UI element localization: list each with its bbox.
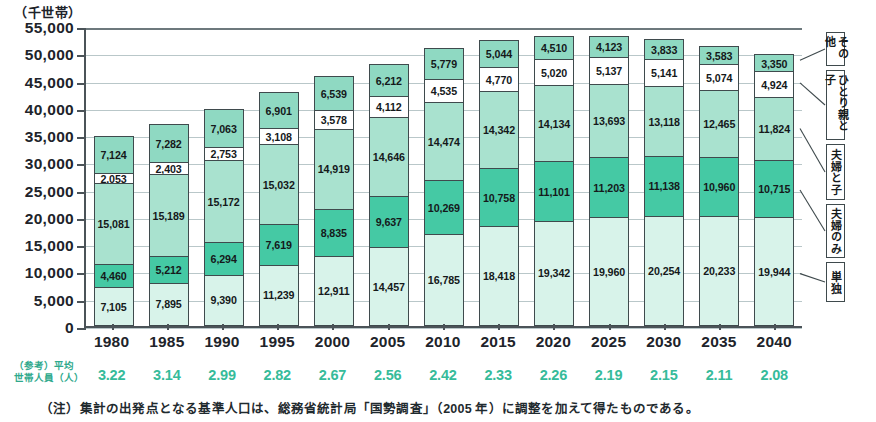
y-axis-tick — [77, 192, 86, 194]
average-household-row: （参考）平均 世帯人員（人） 3.223.142.992.822.672.562… — [0, 360, 876, 388]
average-household-value: 2.33 — [478, 367, 518, 383]
bar-segment: 19,960 — [589, 217, 629, 326]
bar-segment: 14,646 — [369, 117, 409, 197]
y-axis-tick — [77, 55, 86, 57]
x-axis-labels: 1980198519901995200020052010201520202025… — [84, 330, 802, 356]
x-axis-label: 2025 — [589, 333, 629, 351]
legend-item: その他 — [826, 32, 845, 66]
y-axis-tick-label: 10,000 — [25, 264, 74, 282]
legend-item: 夫婦と子 — [826, 144, 845, 200]
bar-segment: 11,203 — [589, 157, 629, 218]
bar-segment: 10,758 — [479, 168, 519, 227]
average-household-value: 2.08 — [754, 367, 794, 383]
x-axis-label: 2040 — [754, 333, 794, 351]
y-axis-tick-label: 0 — [65, 319, 74, 337]
bar-segment: 7,895 — [149, 283, 189, 326]
bar-segment: 12,911 — [314, 256, 354, 326]
stacked-bar: 19,34211,10114,1345,0204,510 — [534, 37, 574, 326]
average-household-value: 2.15 — [644, 367, 684, 383]
legend-item-label: ひとり親と子 — [823, 74, 849, 136]
bar-segment: 7,124 — [94, 136, 134, 175]
bar-segment: 14,919 — [314, 129, 354, 210]
x-axis-tick — [498, 324, 500, 330]
average-household-value: 2.82 — [257, 367, 297, 383]
stacked-bar: 16,78510,26914,4744,5355,779 — [424, 50, 464, 326]
average-caption-line1: （参考）平均 — [14, 360, 86, 372]
y-axis-tick-label: 50,000 — [25, 46, 74, 64]
bar-segment: 15,032 — [259, 144, 299, 226]
x-axis-label: 2030 — [644, 333, 684, 351]
bar-segment: 11,824 — [754, 97, 794, 161]
bar-segment: 5,212 — [149, 256, 189, 284]
stacked-bar: 7,8955,21215,1892,4037,282 — [149, 125, 189, 326]
bar-segment: 5,020 — [534, 59, 574, 86]
y-axis-tick-label: 15,000 — [25, 237, 74, 255]
bar-segment: 13,118 — [644, 86, 684, 158]
average-household-value: 2.26 — [533, 367, 573, 383]
x-axis-label: 1990 — [202, 333, 242, 351]
chart-plot-area: 55,00050,00045,00040,00035,00030,00025,0… — [84, 28, 802, 328]
x-axis-tick-group: 2020 — [533, 330, 573, 351]
bar-segment: 10,269 — [424, 180, 464, 236]
x-axis-tick — [167, 324, 169, 330]
x-axis-label: 2035 — [699, 333, 739, 351]
y-axis-tick — [77, 110, 86, 112]
bar-segment: 19,342 — [534, 221, 574, 327]
bar-segment: 15,081 — [94, 183, 134, 265]
y-axis-tick-label: 20,000 — [25, 210, 74, 228]
stacked-bar: 14,4579,63714,6464,1126,212 — [369, 65, 409, 326]
average-household-value: 2.11 — [699, 367, 739, 383]
stacked-bar: 18,41810,75814,3424,7705,044 — [479, 42, 519, 326]
bar-segment: 4,510 — [534, 36, 574, 61]
bar-segment: 7,282 — [149, 124, 189, 164]
bar-segment: 14,342 — [479, 91, 519, 169]
y-axis-tick — [77, 164, 86, 166]
x-axis-tick — [443, 324, 445, 330]
bar-segment: 19,944 — [754, 217, 794, 326]
bar-segment: 6,212 — [369, 64, 409, 98]
average-household-value: 2.99 — [202, 367, 242, 383]
stacked-bar: 20,25411,13813,1185,1413,833 — [644, 41, 684, 326]
bar-segment: 4,123 — [589, 36, 629, 58]
bar-segment: 3,583 — [699, 46, 739, 66]
x-axis-tick-group: 2005 — [368, 330, 408, 351]
bar-segment: 14,134 — [534, 85, 574, 162]
x-axis-tick-group: 2035 — [699, 330, 739, 351]
legend-leader-line — [800, 129, 825, 172]
stacked-bar: 20,23310,96012,4655,0743,583 — [699, 47, 739, 326]
average-household-caption: （参考）平均 世帯人員（人） — [14, 360, 86, 384]
bar-segment: 13,693 — [589, 84, 629, 159]
bar-segment: 4,770 — [479, 67, 519, 93]
legend-item: 単独 — [826, 262, 845, 302]
legend-leader-line — [800, 49, 825, 60]
average-household-value: 2.56 — [368, 367, 408, 383]
average-caption-line2: 世帯人員（人） — [14, 372, 86, 384]
y-axis-tick — [77, 301, 86, 303]
y-axis-tick — [77, 273, 86, 275]
bar-segment: 5,779 — [424, 48, 464, 80]
x-axis-label: 2020 — [533, 333, 573, 351]
bar-segment: 4,460 — [94, 264, 134, 288]
average-household-value: 3.14 — [147, 367, 187, 383]
bar-segment: 20,233 — [699, 216, 739, 326]
bar-segment: 12,465 — [699, 90, 739, 158]
x-axis-tick — [277, 324, 279, 330]
stacked-bar: 12,9118,83514,9193,5786,539 — [314, 77, 354, 326]
bar-segment: 6,294 — [204, 242, 244, 276]
x-axis-label: 2010 — [423, 333, 463, 351]
x-axis-tick — [719, 324, 721, 330]
x-axis-tick — [609, 324, 611, 330]
stacked-bar: 11,2397,61915,0323,1086,901 — [259, 93, 299, 326]
x-axis-tick-group: 1980 — [92, 330, 132, 351]
bar-segment: 18,418 — [479, 226, 519, 326]
legend-item: ひとり親と子 — [826, 70, 845, 140]
x-axis-tick — [112, 324, 114, 330]
bar-segment: 7,105 — [94, 287, 134, 326]
legend-leader-line — [800, 274, 825, 282]
x-axis-tick — [553, 324, 555, 330]
legend-item-label: その他 — [823, 36, 849, 62]
y-axis-tick — [77, 28, 86, 30]
y-axis-tick-label: 30,000 — [25, 155, 74, 173]
bar-segment: 3,578 — [314, 110, 354, 130]
average-household-values: 3.223.142.992.822.672.562.422.332.262.19… — [84, 367, 802, 383]
